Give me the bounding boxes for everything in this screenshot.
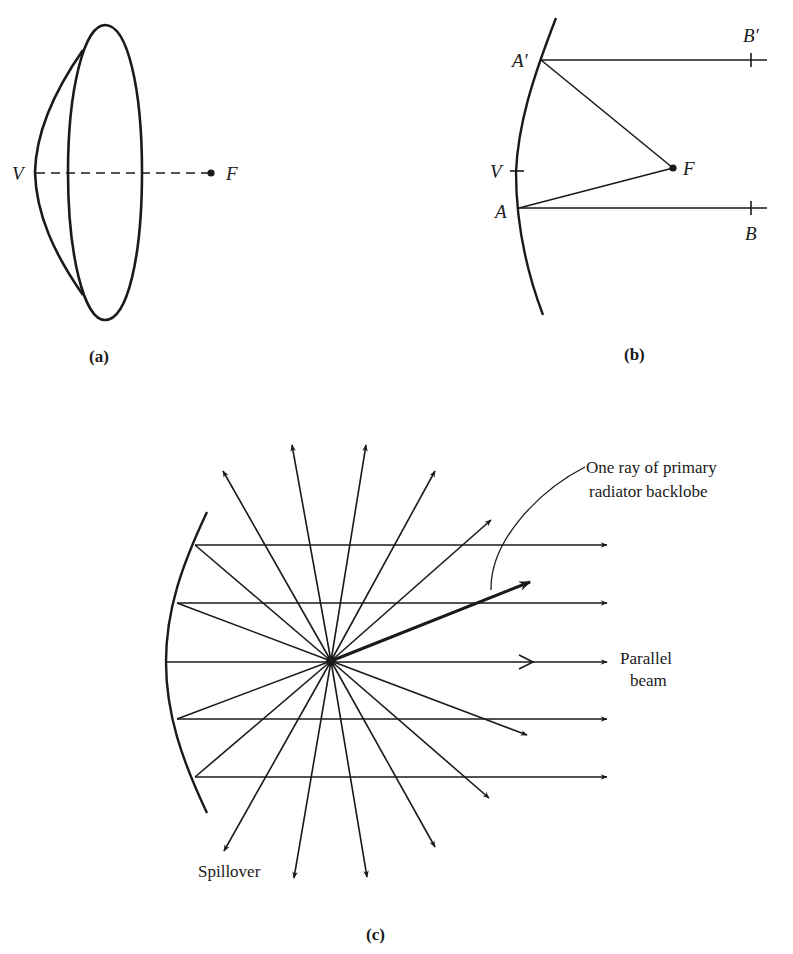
panel-a: [35, 25, 215, 320]
feed-focal-point: [326, 656, 336, 666]
backlobe-label-line2: radiator backlobe: [589, 482, 707, 501]
feed-to-reflector-rays: [177, 545, 331, 777]
parallel-beam-rays: [166, 545, 607, 777]
panel-b: [510, 18, 767, 315]
label-a-prime: A′: [510, 50, 529, 71]
line-a-prime-f: [541, 60, 673, 168]
panel-c: [166, 445, 607, 878]
caption-b: (b): [624, 345, 645, 364]
spillover-rays-upper: [223, 445, 491, 661]
label-a: A: [493, 201, 507, 222]
backlobe-leader-line: [491, 467, 585, 590]
label-b: B: [745, 223, 757, 244]
focus-label: F: [225, 163, 238, 184]
spillover-label: Spillover: [198, 862, 261, 881]
parallel-beam-label-line2: beam: [630, 671, 667, 690]
spillover-rays-lower: [224, 661, 527, 878]
label-v: V: [490, 161, 504, 182]
parallel-beam-label-line1: Parallel: [620, 649, 672, 668]
figure-canvas: V F (a) A′ B′ V F A B (b): [0, 0, 793, 954]
vertex-label: V: [12, 163, 26, 184]
label-f: F: [682, 158, 695, 179]
caption-c: (c): [366, 925, 385, 944]
line-a-f: [519, 168, 673, 208]
caption-a: (a): [89, 347, 109, 366]
label-b-prime: B′: [743, 25, 760, 46]
backlobe-ray: [331, 582, 530, 661]
focus-point-b: [669, 164, 676, 171]
backlobe-label-line1: One ray of primary: [586, 458, 717, 477]
focus-point: [207, 169, 214, 176]
